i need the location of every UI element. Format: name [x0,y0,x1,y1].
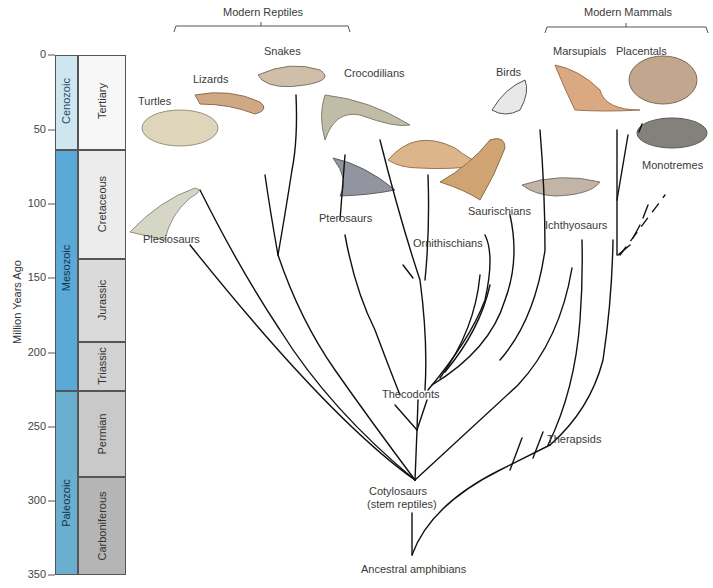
taxon-ichthyosaurs: Ichthyosaurs [545,219,607,231]
rabbit-illustration [629,56,697,104]
taxon-ancestral-amphibians: Ancestral amphibians [361,563,466,575]
taxon-marsupials: Marsupials [553,45,606,57]
lizard-illustration [195,93,264,114]
turtle-illustration [142,110,218,146]
echidna-illustration [637,118,707,148]
taxon-lizards: Lizards [193,73,228,85]
group-label-modern-mammals: Modern Mammals [584,6,672,18]
taxon-monotremes: Monotremes [642,159,703,171]
taxon-cotylosaurs: Cotylosaurs [369,485,427,497]
taxon-thecodonts: Thecodonts [382,388,439,400]
taxon-cotylosaurs-subtitle: (stem reptiles) [367,498,437,510]
taxon-placentals: Placentals [616,45,667,57]
taxon-saurischians: Saurischians [468,205,531,217]
taxon-therapsids: Therapsids [547,433,601,445]
bird-illustration [492,80,527,114]
taxon-birds: Birds [496,66,521,78]
ichthyosaur-illustration [522,178,600,196]
taxon-pterosaurs: Pterosaurs [319,212,372,224]
phylogeny-tree [0,0,713,588]
snake-illustration [258,66,325,87]
crocodile-illustration [322,95,411,140]
bracket-mammals [545,27,708,33]
kangaroo-illustration [555,65,640,111]
taxon-snakes: Snakes [264,45,301,57]
taxon-crocodilians: Crocodilians [344,67,405,79]
taxon-plesiosaurs: Plesiosaurs [143,233,200,245]
group-label-modern-reptiles: Modern Reptiles [223,6,303,18]
bracket-reptiles [174,26,350,32]
taxon-ornithischians: Ornithischians [413,237,483,249]
taxon-turtles: Turtles [138,95,171,107]
